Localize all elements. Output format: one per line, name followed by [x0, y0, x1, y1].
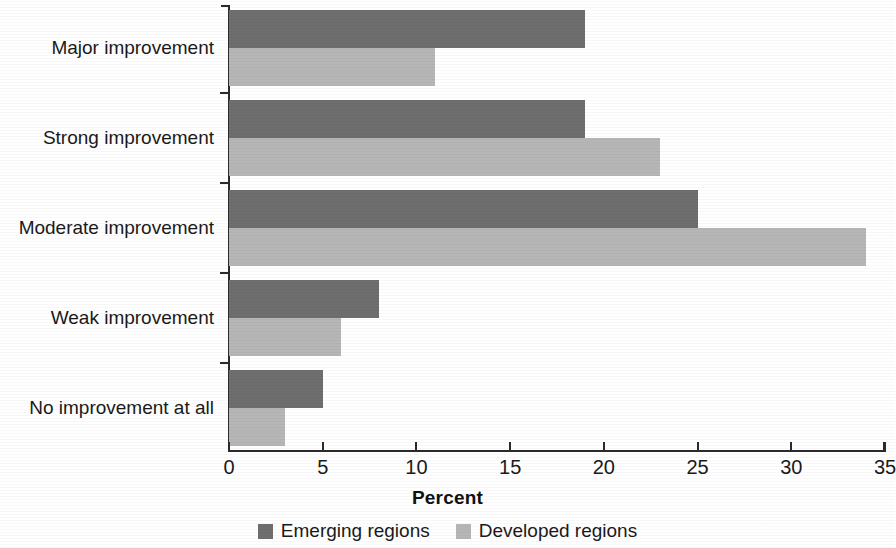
x-axis-tick-label: 30	[780, 456, 802, 479]
y-axis-category-label: No improvement at all	[29, 397, 214, 419]
bar	[229, 100, 585, 138]
bar	[229, 190, 698, 228]
bar	[229, 138, 660, 176]
bar	[229, 228, 866, 266]
x-axis-tick-label: 0	[223, 456, 234, 479]
x-axis-tick-label: 15	[499, 456, 521, 479]
x-axis-title: Percent	[0, 487, 895, 509]
y-axis-tick	[220, 92, 230, 94]
x-axis-tick	[697, 442, 699, 452]
bar	[229, 318, 341, 356]
y-axis-category-label: Weak improvement	[51, 307, 214, 329]
bar	[229, 48, 435, 86]
y-axis-top-cap	[221, 5, 230, 7]
y-axis-category-label: Major improvement	[51, 37, 214, 59]
legend-item[interactable]: Developed regions	[456, 520, 637, 542]
x-axis-tick-label: 5	[317, 456, 328, 479]
x-axis-tick-label: 35	[874, 456, 896, 479]
x-axis-line	[228, 450, 885, 452]
x-axis-tick	[790, 442, 792, 452]
legend-label: Emerging regions	[281, 520, 430, 542]
x-axis-tick	[884, 442, 886, 452]
bar	[229, 408, 285, 446]
bar	[229, 370, 323, 408]
x-axis-tick	[228, 442, 230, 452]
x-axis-tick-label: 25	[686, 456, 708, 479]
y-axis-tick	[220, 272, 230, 274]
x-axis-tick-label: 10	[405, 456, 427, 479]
x-axis-tick-label: 20	[593, 456, 615, 479]
legend-label: Developed regions	[479, 520, 637, 542]
chart-legend: Emerging regionsDeveloped regions	[0, 520, 895, 542]
legend-swatch-icon	[258, 524, 273, 539]
x-axis-tick	[415, 442, 417, 452]
x-axis-tick	[603, 442, 605, 452]
legend-swatch-icon	[456, 524, 471, 539]
y-axis-category-label: Strong improvement	[43, 127, 214, 149]
x-axis-tick	[322, 442, 324, 452]
y-axis-tick	[220, 182, 230, 184]
bar	[229, 10, 585, 48]
bar	[229, 280, 379, 318]
legend-item[interactable]: Emerging regions	[258, 520, 430, 542]
y-axis-category-label: Moderate improvement	[19, 217, 214, 239]
y-axis-tick	[220, 362, 230, 364]
x-axis-tick	[509, 442, 511, 452]
